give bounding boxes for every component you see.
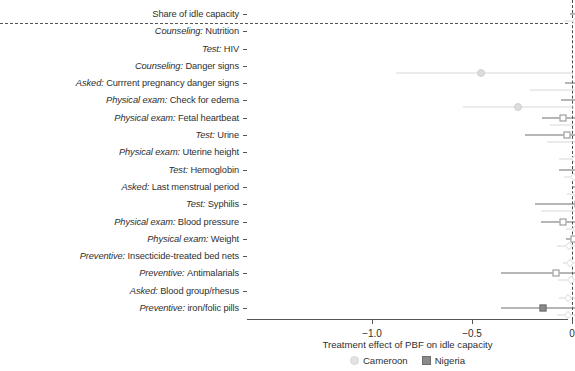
legend-label-cameroon: Cameroon [363, 355, 408, 366]
plot-area: −1.0−0.500.51.0 [247, 0, 568, 320]
confidence-interval-bar [565, 83, 575, 84]
row-label: Counseling: Danger signs [135, 61, 239, 71]
y-axis-tick [243, 83, 247, 84]
x-axis-tick-label: −0.5 [462, 328, 482, 339]
top-dashed-reference-line [0, 23, 568, 24]
row-label: Physical exam: Uterine height [119, 147, 239, 157]
y-axis-tick [243, 187, 247, 188]
x-axis-title: Treatment effect of PBF on idle capacity [247, 339, 568, 350]
row-label-text: Syphilis [208, 199, 239, 209]
row-label-text: Nutrition [205, 26, 239, 36]
row-label-text: Urine [217, 130, 239, 140]
row-label-column: Share of idle capacityCounseling: Nutrit… [0, 0, 247, 320]
row-label: Test: HIV [202, 44, 239, 54]
row-label: Physical exam: Check for edema [106, 95, 239, 105]
x-axis-tick [472, 320, 473, 324]
confidence-interval-bar [542, 117, 575, 118]
confidence-interval-bar [501, 308, 575, 309]
y-axis-tick [243, 100, 247, 101]
x-axis-tick [572, 320, 573, 324]
y-axis-tick [243, 49, 247, 50]
y-axis-tick [243, 291, 247, 292]
data-point-marker [560, 218, 567, 225]
legend-item-nigeria: Nigeria [422, 355, 465, 366]
row-label: Share of idle capacity [152, 9, 239, 19]
data-point-marker [540, 305, 547, 312]
row-label-category: Test: [186, 199, 208, 209]
confidence-interval-bar [541, 211, 575, 212]
row-label-text: Insecticide-treated bed nets [128, 251, 239, 261]
data-point-marker [553, 270, 560, 277]
y-axis-tick [243, 273, 247, 274]
data-point-marker [564, 293, 572, 301]
data-point-marker [571, 235, 575, 242]
confidence-interval-bar [561, 100, 575, 101]
legend-item-cameroon: Cameroon [350, 355, 408, 366]
x-axis-tick-label: 0 [569, 328, 575, 339]
row-label-category: Asked: [76, 78, 106, 88]
x-axis-line [247, 319, 568, 320]
legend-label-nigeria: Nigeria [435, 355, 465, 366]
row-label-category: Test: [195, 130, 217, 140]
y-axis-tick [243, 204, 247, 205]
row-label: Asked: Blood group/rhesus [130, 286, 239, 296]
row-label: Physical exam: Fetal heartbeat [114, 113, 239, 123]
y-axis-tick [243, 308, 247, 309]
row-label-category: Preventive: [80, 251, 128, 261]
y-axis-tick [243, 256, 247, 257]
row-label-text: Antimalarials [187, 268, 239, 278]
data-point-marker [477, 69, 485, 77]
row-label-text: Share of idle capacity [152, 9, 239, 19]
row-label: Test: Syphilis [186, 199, 239, 209]
y-axis-tick [243, 239, 247, 240]
row-label: Asked: Currrent pregnancy danger signs [76, 78, 239, 88]
row-label-category: Counseling: [155, 26, 205, 36]
row-label-text: Blood group/rhesus [160, 286, 239, 296]
row-label: Asked: Last menstrual period [121, 182, 239, 192]
row-label-category: Physical exam: [106, 95, 170, 105]
row-label-text: Currrent pregnancy danger signs [106, 78, 239, 88]
y-axis-tick [243, 14, 247, 15]
x-axis-tick-label: −1.0 [362, 328, 382, 339]
row-label: Preventive: Insecticide-treated bed nets [80, 251, 239, 261]
y-axis-tick [243, 135, 247, 136]
confidence-interval-bar [550, 124, 575, 125]
forest-plot: Share of idle capacityCounseling: Nutrit… [0, 0, 575, 371]
row-label-category: Preventive: [139, 268, 187, 278]
legend: Cameroon Nigeria [247, 355, 568, 366]
cameroon-marker-icon [350, 356, 359, 365]
row-label-category: Asked: [130, 286, 160, 296]
row-label-category: Physical exam: [114, 113, 178, 123]
row-label: Counseling: Nutrition [155, 26, 239, 36]
y-axis-tick [243, 66, 247, 67]
row-label-text: Blood pressure [178, 217, 239, 227]
confidence-interval-bar [501, 273, 575, 274]
row-label-category: Test: [169, 165, 191, 175]
row-label-category: Counseling: [135, 61, 185, 71]
confidence-interval-bar [535, 204, 575, 205]
row-label: Test: Hemoglobin [169, 165, 239, 175]
row-label-text: Weight [211, 234, 239, 244]
y-axis-tick [243, 118, 247, 119]
row-label-text: HIV [224, 44, 239, 54]
data-point-marker [570, 172, 575, 180]
y-axis-tick [243, 222, 247, 223]
nigeria-marker-icon [422, 356, 431, 365]
row-label: Preventive: iron/folic pills [139, 303, 239, 313]
data-point-marker [514, 103, 522, 111]
row-label-text: iron/folic pills [187, 303, 239, 313]
row-label-category: Test: [202, 44, 224, 54]
confidence-interval-bar [541, 221, 575, 222]
row-label-category: Physical exam: [119, 147, 183, 157]
row-label: Preventive: Antimalarials [139, 268, 239, 278]
row-label-category: Preventive: [139, 303, 187, 313]
data-point-marker [564, 132, 571, 139]
y-axis-tick [243, 170, 247, 171]
row-label-text: Uterine height [183, 147, 239, 157]
row-label-text: Danger signs [185, 61, 239, 71]
row-label-category: Physical exam: [147, 234, 211, 244]
data-point-marker [560, 114, 567, 121]
x-axis-tick [372, 320, 373, 324]
y-axis-tick [243, 152, 247, 153]
row-label: Test: Urine [195, 130, 239, 140]
